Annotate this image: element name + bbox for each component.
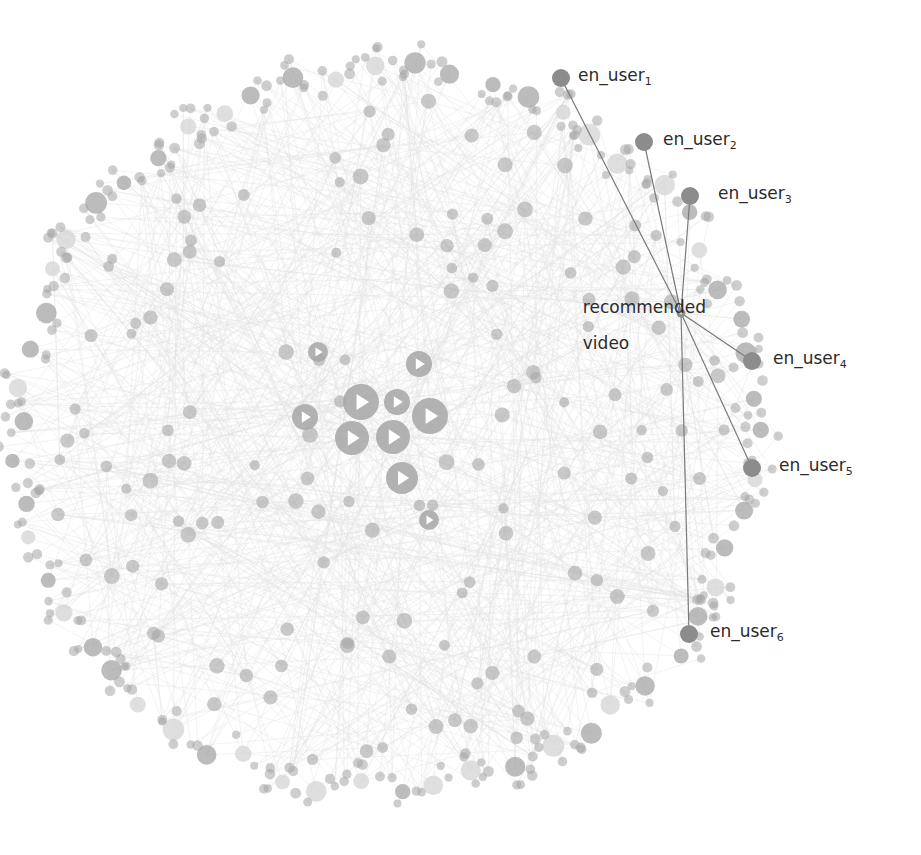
user-label-3: en_user3	[718, 185, 792, 202]
recommended-video-label-line1: recommended	[583, 297, 706, 317]
user-label-6: en_user6	[710, 623, 784, 640]
network-graph	[0, 0, 921, 855]
recommended-video-label: recommended video	[572, 280, 706, 352]
user-label-5: en_user5	[779, 457, 853, 474]
user-label-2: en_user2	[663, 131, 737, 148]
user-label-1: en_user1	[578, 67, 652, 84]
recommended-video-label-line2: video	[583, 333, 629, 353]
user-label-4: en_user4	[773, 350, 847, 367]
